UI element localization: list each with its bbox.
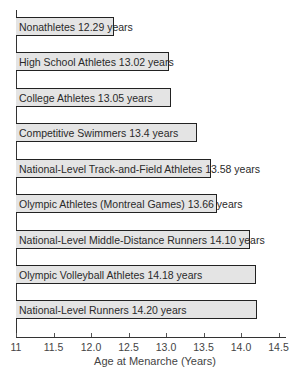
- x-tick-label: 12.0: [81, 341, 101, 353]
- menarche-bar-chart: Nonathletes 12.29 years High School Athl…: [0, 0, 292, 372]
- bar-label-middle-distance-runners: National-Level Middle-Distance Runners 1…: [19, 230, 265, 250]
- bar-label-track-and-field: National-Level Track-and-Field Athletes …: [19, 159, 260, 179]
- x-axis-title: Age at Menarche (Years): [0, 355, 292, 367]
- x-tick-label: 14.0: [231, 341, 251, 353]
- x-tick-label: 12.5: [118, 341, 138, 353]
- bar-label-national-runners: National-Level Runners 14.20 years: [19, 300, 187, 320]
- bar-label-olympic-montreal: Olympic Athletes (Montreal Games) 13.66 …: [19, 194, 243, 214]
- x-axis-line: [16, 337, 286, 338]
- bar-label-nonathletes: Nonathletes 12.29 years: [19, 17, 133, 37]
- x-tick: [204, 333, 205, 337]
- x-tick: [279, 333, 280, 337]
- x-tick: [91, 333, 92, 337]
- x-tick: [166, 333, 167, 337]
- x-tick-label: 11.5: [44, 341, 64, 353]
- x-tick: [241, 333, 242, 337]
- bar-label-high-school-athletes: High School Athletes 13.02 years: [19, 52, 174, 72]
- x-tick: [16, 333, 17, 337]
- x-tick-label: 13.5: [193, 341, 213, 353]
- x-tick: [54, 333, 55, 337]
- bar-label-college-athletes: College Athletes 13.05 years: [19, 88, 153, 108]
- x-tick-label: 11: [11, 341, 22, 353]
- x-tick-label: 14.5: [268, 341, 288, 353]
- bar-label-olympic-volleyball: Olympic Volleyball Athletes 14.18 years: [19, 265, 202, 285]
- bar-label-competitive-swimmers: Competitive Swimmers 13.4 years: [19, 123, 178, 143]
- x-tick-label: 13.0: [156, 341, 176, 353]
- x-tick: [129, 333, 130, 337]
